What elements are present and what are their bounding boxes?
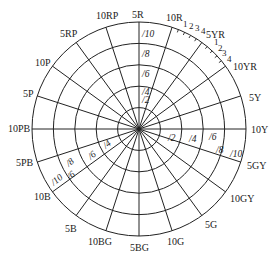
- chroma-labels-left: /4 /6 /8 /6 /10: [48, 138, 113, 188]
- hue-label-10Y: 10Y: [251, 124, 268, 135]
- hue-label-10RP: 10RP: [96, 10, 119, 21]
- hue-spokes: [32, 22, 246, 236]
- chroma-label-right-8: /8: [215, 145, 224, 155]
- hue-label-5RP: 5RP: [60, 28, 78, 39]
- hue-label-5G: 5G: [205, 219, 217, 230]
- spoke-5RP: [76, 42, 139, 129]
- spoke-5P: [37, 96, 139, 129]
- tick-label-10R-1: 1: [183, 19, 188, 29]
- chroma-label-right-4: /4: [188, 134, 197, 144]
- hue-label-10B: 10B: [34, 191, 51, 202]
- chroma-labels-top: /10 /8 /6 /4 /2: [141, 29, 154, 105]
- chroma-label-right-10: /10: [229, 149, 242, 159]
- hue-label-5P: 5P: [23, 88, 34, 99]
- hue-label-10BG: 10BG: [88, 236, 112, 247]
- hue-label-5R: 5R: [132, 9, 144, 20]
- hue-label-10PB: 10PB: [8, 123, 31, 134]
- hue-label-10P: 10P: [35, 57, 51, 68]
- tick-labels: 1 2 3 4 1 2 3 4: [183, 19, 232, 64]
- hue-label-10GY: 10GY: [230, 193, 254, 204]
- chroma-label-left-8: /8: [63, 156, 76, 169]
- tick-5YR-1: [205, 46, 207, 48]
- spoke-10YR: [139, 66, 226, 129]
- chroma-label-right-2: /2: [167, 133, 176, 143]
- hue-label-10G: 10G: [167, 236, 184, 247]
- spoke-10G: [139, 129, 172, 231]
- tick-10R-3: [189, 35, 191, 38]
- tick-label-10R-3: 3: [195, 23, 200, 33]
- tick-label-10R-4: 4: [201, 26, 206, 36]
- tick-10R-4: [195, 39, 197, 42]
- spoke-5Y: [139, 96, 241, 129]
- tick-5YR-2: [210, 51, 212, 53]
- chroma-label-top-2: /2: [141, 95, 150, 105]
- chroma-label-left-10: /10: [48, 172, 65, 188]
- munsell-hue-chroma-diagram: 5R 10R 5YR 10YR 5Y 10Y 5GY 10GY 5G 10G 5…: [0, 0, 272, 259]
- hue-label-5GY: 5GY: [247, 160, 266, 171]
- tick-10R-2: [183, 32, 184, 35]
- hue-label-10R: 10R: [166, 12, 183, 23]
- tick-10R-1: [177, 30, 178, 33]
- chroma-label-top-10: /10: [141, 29, 154, 39]
- chroma-label-left-6b: /6: [64, 169, 77, 182]
- tick-label-10R-2: 2: [189, 21, 194, 31]
- tick-5YR-3: [215, 56, 217, 58]
- chroma-label-top-8: /8: [141, 49, 150, 59]
- chroma-label-right-6: /6: [208, 132, 217, 142]
- hue-label-5B: 5B: [65, 223, 77, 234]
- tick-5YR-4: [219, 61, 222, 63]
- hue-label-5PB: 5PB: [16, 157, 34, 168]
- spoke-10P: [52, 66, 139, 129]
- tick-label-5YR-4: 4: [227, 54, 232, 64]
- hue-label-5BG: 5BG: [130, 242, 149, 253]
- chroma-label-top-6: /6: [141, 69, 150, 79]
- hue-label-5Y: 5Y: [249, 92, 261, 103]
- hue-label-10YR: 10YR: [233, 61, 257, 72]
- spoke-10RP: [106, 27, 139, 129]
